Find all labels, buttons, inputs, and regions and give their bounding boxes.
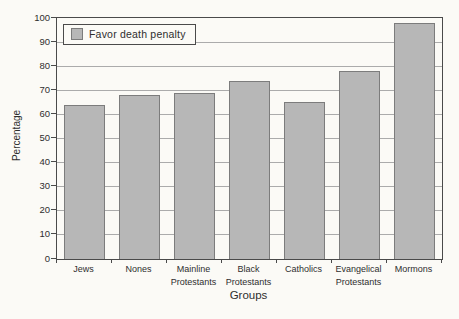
y-tick-label-60: 60 xyxy=(18,108,50,119)
y-tick-label-0: 0 xyxy=(18,253,50,264)
legend-swatch-icon xyxy=(71,28,83,40)
legend: Favor death penalty xyxy=(63,24,196,45)
bar-catholics xyxy=(284,102,325,259)
y-tick-mark-50 xyxy=(51,137,56,138)
y-tick-mark-30 xyxy=(51,185,56,186)
y-tick-label-90: 90 xyxy=(18,36,50,47)
bar-jews xyxy=(64,105,105,259)
plot-area: Favor death penalty xyxy=(56,17,443,260)
legend-label: Favor death penalty xyxy=(89,28,186,40)
y-tick-mark-20 xyxy=(51,209,56,210)
y-tick-label-100: 100 xyxy=(18,12,50,23)
gridline-80 xyxy=(57,66,442,67)
bar-black-protestants xyxy=(229,81,270,259)
bar-evangelical-protestants xyxy=(339,71,380,259)
y-tick-label-10: 10 xyxy=(18,228,50,239)
bar-mainline-protestants xyxy=(174,93,215,259)
y-tick-label-30: 30 xyxy=(18,180,50,191)
y-tick-label-50: 50 xyxy=(18,132,50,143)
y-tick-mark-10 xyxy=(51,233,56,234)
y-tick-mark-100 xyxy=(51,17,56,18)
x-category-label-mormons: Mormons xyxy=(382,263,446,276)
bar-nones xyxy=(119,95,160,259)
chart-figure: Percentage Favor death penalty 010203040… xyxy=(0,0,459,319)
y-tick-mark-40 xyxy=(51,161,56,162)
y-tick-mark-70 xyxy=(51,89,56,90)
y-tick-label-70: 70 xyxy=(18,84,50,95)
y-tick-label-20: 20 xyxy=(18,204,50,215)
bar-mormons xyxy=(394,23,435,259)
y-tick-mark-80 xyxy=(51,65,56,66)
y-tick-mark-60 xyxy=(51,113,56,114)
y-tick-mark-90 xyxy=(51,41,56,42)
y-tick-label-40: 40 xyxy=(18,156,50,167)
x-axis-title: Groups xyxy=(188,289,309,301)
y-tick-label-80: 80 xyxy=(18,60,50,71)
